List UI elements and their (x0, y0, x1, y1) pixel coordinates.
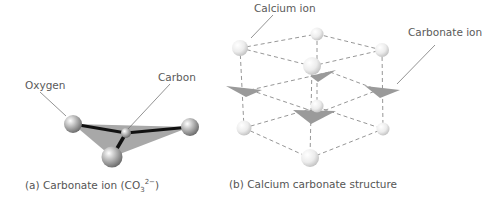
oxygen-atom-right (181, 118, 199, 136)
oxygen-atom-left (64, 115, 82, 133)
calcium-leader-line (251, 15, 273, 38)
calcium-ion (232, 40, 248, 56)
carbonate-ion-molecule (40, 84, 199, 168)
calcium-ion (375, 43, 389, 57)
calcium-ion (303, 57, 321, 75)
carbon-leader-line (128, 84, 170, 129)
calcium-ion-label: Calcium ion (254, 2, 316, 14)
carbon-atom (121, 128, 131, 138)
caption-a-superscript: 2− (145, 178, 155, 186)
carbonate-ion-triangles (226, 70, 400, 124)
carbon-label: Carbon (158, 71, 196, 83)
caption-a: (a) Carbonate ion (CO32−) (25, 178, 159, 194)
caption-a-prefix: (a) Carbonate ion (CO (25, 179, 140, 191)
carbonate-leader-line (397, 45, 435, 84)
oxygen-label: Oxygen (25, 79, 65, 91)
oxygen-atom-front (102, 147, 123, 168)
caption-b: (b) Calcium carbonate structure (229, 178, 397, 190)
calcium-ion (237, 121, 252, 136)
calcium-ion (301, 149, 319, 167)
calcium-ion (311, 28, 324, 41)
carbonate-ion-label: Carbonate ion (408, 26, 482, 38)
oxygen-leader-line (40, 92, 66, 116)
calcium-ions (232, 28, 390, 168)
calcium-ion (377, 123, 390, 136)
carbonate-triangle-front (293, 110, 336, 124)
caption-a-subscript: 3 (140, 186, 144, 194)
calcium-ion (311, 100, 324, 113)
caption-a-suffix: ) (155, 179, 159, 191)
carbonate-triangle-left (226, 86, 262, 97)
calcium-carbonate-lattice (240, 34, 383, 158)
